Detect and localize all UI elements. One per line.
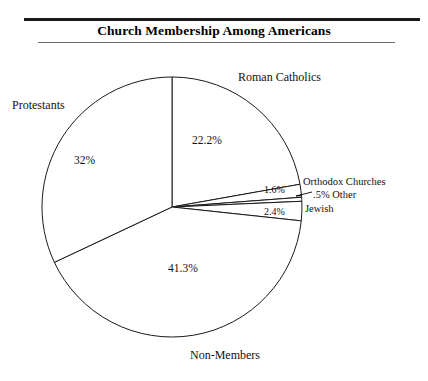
pie-value-non-members: 41.3% <box>168 261 198 275</box>
pie-chart <box>0 0 428 381</box>
pie-value-roman-catholics: 22.2% <box>192 133 222 147</box>
chart-page: Church Membership Among Americans Protes… <box>0 0 428 381</box>
leader-tick-other <box>296 195 302 196</box>
pie-label-other: .5% Other <box>313 189 356 201</box>
pie-value-jewish: 2.4% <box>264 205 285 219</box>
pie-label-jewish: Jewish <box>305 203 334 215</box>
pie-label-non-members: Non-Members <box>190 348 260 362</box>
pie-label-roman-catholics: Roman Catholics <box>238 70 321 84</box>
pie-label-protestants: Protestants <box>12 98 65 112</box>
pie-slice-group <box>42 77 302 337</box>
pie-label-orthodox-churches: Orthodox Churches <box>303 176 386 188</box>
pie-value-protestants: 32% <box>74 153 95 167</box>
pie-value-orthodox-churches: 1.6% <box>264 183 285 197</box>
